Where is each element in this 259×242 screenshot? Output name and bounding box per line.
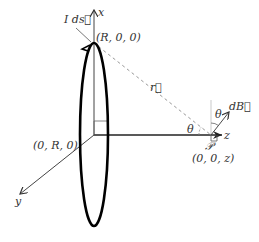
ids-leader-line xyxy=(76,28,91,42)
point-p-coords: (0, 0, z) xyxy=(192,153,234,164)
y-axis-label: y xyxy=(15,196,21,207)
r-vector-label: r⃗ xyxy=(150,82,162,93)
angle-theta-left: θ xyxy=(187,124,194,135)
point-top-label: (R, 0, 0) xyxy=(96,32,141,43)
point-side-label: (0, R, 0) xyxy=(33,140,78,151)
angle-theta-right: θ xyxy=(215,109,222,120)
origin-bracket xyxy=(94,121,108,135)
db-label: dB⃗ xyxy=(229,101,251,112)
x-axis-label: x xyxy=(98,7,104,18)
point-p-label: 𝒫 xyxy=(205,141,213,152)
current-element-label: I ds⃗ xyxy=(64,14,91,25)
angle-arc-right xyxy=(211,123,219,126)
z-axis-label: z xyxy=(224,130,230,141)
angle-arc-left xyxy=(199,128,201,136)
